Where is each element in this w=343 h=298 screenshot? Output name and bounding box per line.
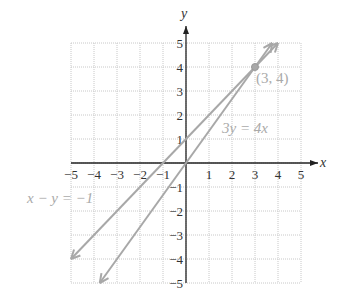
svg-text:4: 4 (177, 60, 184, 75)
svg-text:4: 4 (275, 167, 282, 182)
svg-text:5: 5 (177, 36, 184, 51)
svg-text:−5: −5 (169, 276, 183, 291)
svg-text:−5: −5 (64, 167, 78, 182)
x-axis-label: x (319, 155, 327, 170)
svg-text:2: 2 (177, 108, 184, 123)
svg-text:−3: −3 (169, 228, 183, 243)
svg-text:1: 1 (206, 167, 213, 182)
point-label: (3, 4) (256, 70, 289, 87)
line-label-3y-4x: 3y = 4x (221, 120, 268, 136)
svg-text:−2: −2 (133, 167, 147, 182)
svg-text:−2: −2 (169, 204, 183, 219)
svg-text:−4: −4 (169, 252, 183, 267)
svg-text:−4: −4 (87, 167, 101, 182)
svg-text:5: 5 (298, 167, 305, 182)
coordinate-plane: −5−4−3−2−11234554321−1−2−3−4−5 (3, 4) 3y… (0, 0, 343, 298)
svg-text:3: 3 (252, 167, 259, 182)
y-axis-label: y (179, 6, 188, 21)
axes (71, 26, 318, 283)
svg-text:3: 3 (177, 84, 184, 99)
svg-text:−3: −3 (110, 167, 124, 182)
line-label-x-y: x − y = −1 (26, 190, 93, 206)
svg-text:2: 2 (229, 167, 236, 182)
